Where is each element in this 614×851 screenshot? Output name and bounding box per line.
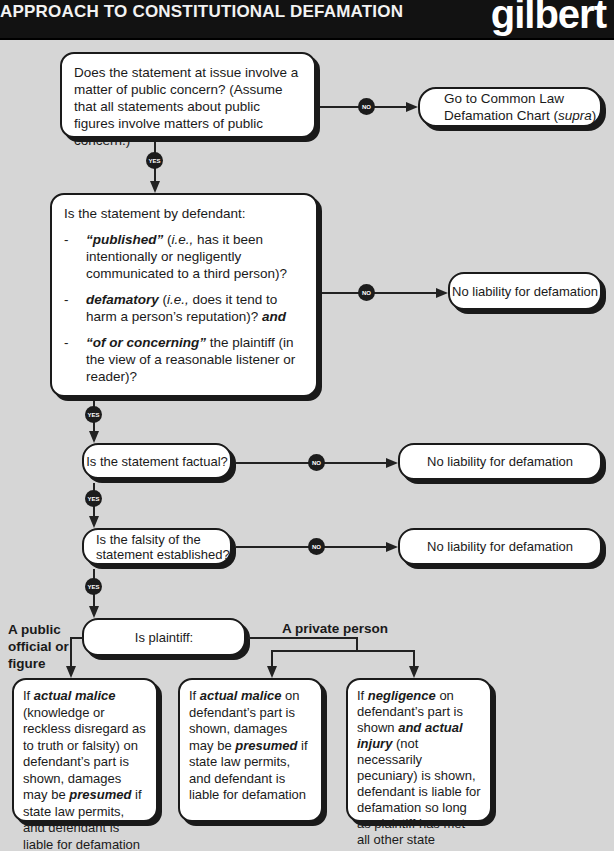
yes-badge: YES — [146, 152, 163, 169]
outcome-private-negligence: If negligence on defendant’s part is sho… — [346, 678, 492, 822]
no-badge: NO — [308, 538, 325, 555]
yes-badge: YES — [85, 490, 102, 507]
gilbert-logo: gilbert — [491, 0, 606, 37]
arrow-down-icon — [267, 666, 277, 678]
no-badge: NO — [308, 454, 325, 471]
connector-private-v1 — [356, 637, 358, 651]
falsity-question: Is the falsity of the statement establis… — [82, 528, 232, 565]
outcome-private-actual-malice: If actual malice on defendant’s part is … — [178, 678, 323, 822]
arrow-down-icon — [150, 181, 160, 193]
connector-private-h1 — [248, 637, 357, 639]
page-title: APPROACH TO CONSTITUTIONAL DEFAMATION — [0, 2, 403, 22]
arrow-down-icon — [66, 666, 76, 678]
header-bar: APPROACH TO CONSTITUTIONAL DEFAMATION gi… — [0, 0, 614, 40]
element-of-or-concerning: - “of or concerning” the plaintiff (in t… — [64, 334, 304, 385]
connector-no-2 — [322, 292, 438, 294]
elements-intro: Is the statement by defendant: — [64, 205, 304, 222]
common-law-outcome: Go to Common Law Defamation Chart (supra… — [418, 87, 602, 127]
common-law-line1: Go to Common Law — [444, 91, 564, 106]
arrow-down-icon — [89, 431, 99, 443]
no-badge: NO — [358, 98, 375, 115]
yes-badge: YES — [85, 406, 102, 423]
public-concern-question: Does the statement at issue involve a ma… — [60, 52, 316, 138]
arrow-down-icon — [89, 606, 99, 618]
arrow-right-icon — [436, 288, 448, 298]
element-published: - “published” (i.e., has it been intenti… — [64, 231, 304, 282]
private-person-branch-label: A private person — [282, 620, 388, 637]
connector-public-v — [70, 637, 72, 669]
no-liability-outcome-3: No liability for defamation — [398, 528, 602, 565]
arrow-right-icon — [406, 102, 418, 112]
connector-private-h2 — [271, 650, 414, 652]
public-concern-text: Does the statement at issue involve a ma… — [74, 65, 298, 148]
no-badge: NO — [358, 284, 375, 301]
outcome-public-official: If actual malice (knowledge or reckless … — [12, 678, 158, 822]
connector-public-h — [70, 637, 84, 639]
no-liability-outcome-1: No liability for defamation — [448, 272, 602, 310]
arrow-right-icon — [386, 458, 398, 468]
public-official-branch-label: A public official or figure — [8, 621, 74, 672]
factual-question: Is the statement factual? — [82, 443, 232, 479]
element-defamatory: - defamatory (i.e., does it tend to harm… — [64, 291, 304, 325]
arrow-down-icon — [89, 516, 99, 528]
no-liability-outcome-2: No liability for defamation — [398, 443, 602, 480]
elements-question: Is the statement by defendant: - “publis… — [50, 193, 318, 397]
yes-badge: YES — [85, 578, 102, 595]
plaintiff-question: Is plaintiff: — [82, 618, 246, 656]
arrow-right-icon — [386, 542, 398, 552]
arrow-down-icon — [409, 666, 419, 678]
